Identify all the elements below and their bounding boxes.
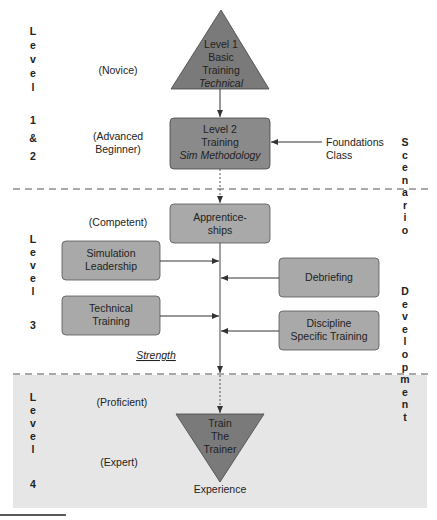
svg-text:n: n bbox=[402, 174, 408, 186]
svg-text:Level 2: Level 2 bbox=[203, 123, 237, 135]
svg-text:c: c bbox=[402, 149, 408, 161]
technical-training-text-1: Technical bbox=[89, 302, 133, 314]
svg-text:Trainer: Trainer bbox=[204, 443, 237, 455]
stage-novice: (Novice) bbox=[98, 64, 137, 76]
stage-proficient: (Proficient) bbox=[97, 396, 148, 408]
svg-text:e: e bbox=[30, 404, 36, 416]
svg-text:e: e bbox=[30, 67, 36, 79]
svg-text:t: t bbox=[403, 411, 407, 423]
training-progression-diagram: L e v e l 1 & 2 L e v e l 3 L e v e l 4 … bbox=[0, 0, 437, 520]
stage-expert: (Expert) bbox=[100, 456, 137, 468]
svg-text:l: l bbox=[32, 443, 35, 455]
discipline-specific-text-2: Specific Training bbox=[290, 330, 367, 342]
apprenticeships-text-2: ships bbox=[208, 224, 233, 236]
stage-competent: (Competent) bbox=[89, 216, 147, 228]
foundations-class-2: Class bbox=[326, 149, 352, 161]
svg-text:m: m bbox=[400, 373, 409, 385]
svg-text:e: e bbox=[30, 39, 36, 51]
svg-text:1: 1 bbox=[30, 114, 36, 126]
svg-text:3: 3 bbox=[30, 319, 36, 331]
svg-text:Sim Methodology: Sim Methodology bbox=[179, 149, 261, 161]
stage-advanced-beginner-2: Beginner) bbox=[95, 143, 141, 155]
svg-text:&: & bbox=[29, 132, 37, 144]
svg-text:l: l bbox=[32, 285, 35, 297]
technical-training-text-2: Training bbox=[92, 315, 130, 327]
svg-text:Level 1: Level 1 bbox=[204, 38, 238, 50]
simulation-leadership-text-2: Leadership bbox=[85, 260, 137, 272]
svg-text:r: r bbox=[403, 199, 407, 211]
svg-text:D: D bbox=[401, 285, 409, 297]
svg-text:n: n bbox=[402, 398, 408, 410]
svg-text:L: L bbox=[30, 233, 37, 245]
svg-text:e: e bbox=[402, 323, 408, 335]
svg-text:L: L bbox=[30, 391, 37, 403]
foundations-class-1: Foundations bbox=[326, 136, 384, 148]
svg-text:e: e bbox=[402, 386, 408, 398]
simulation-leadership-text-1: Simulation bbox=[86, 247, 135, 259]
svg-text:l: l bbox=[32, 81, 35, 93]
svg-text:4: 4 bbox=[30, 478, 36, 490]
svg-text:Basic: Basic bbox=[208, 51, 234, 63]
svg-text:v: v bbox=[30, 417, 36, 429]
apprenticeships-text-1: Apprentice- bbox=[193, 211, 247, 223]
svg-text:e: e bbox=[30, 430, 36, 442]
svg-text:e: e bbox=[30, 246, 36, 258]
svg-text:o: o bbox=[402, 348, 408, 360]
stage-advanced-beginner-1: (Advanced bbox=[93, 130, 143, 142]
svg-text:Technical: Technical bbox=[199, 77, 244, 89]
scenario-vertical-label: S c e n a r i o bbox=[401, 136, 408, 236]
svg-text:a: a bbox=[402, 186, 408, 198]
svg-text:v: v bbox=[402, 310, 408, 322]
svg-text:S: S bbox=[401, 136, 408, 148]
experience-label: Experience bbox=[194, 483, 247, 495]
svg-text:e: e bbox=[402, 161, 408, 173]
strength-label: Strength bbox=[136, 349, 176, 361]
svg-text:The: The bbox=[211, 430, 229, 442]
svg-text:p: p bbox=[402, 361, 408, 373]
discipline-specific-text-1: Discipline bbox=[307, 317, 352, 329]
svg-text:i: i bbox=[404, 211, 407, 223]
level-3-label: L e v e l 3 bbox=[30, 233, 37, 331]
svg-text:o: o bbox=[402, 224, 408, 236]
svg-text:v: v bbox=[30, 53, 36, 65]
svg-text:Train: Train bbox=[208, 417, 232, 429]
svg-text:l: l bbox=[404, 335, 407, 347]
level-1-text: Level 1 Basic Training Technical bbox=[199, 38, 244, 89]
svg-text:v: v bbox=[30, 259, 36, 271]
level-1-2-label: L e v e l 1 & 2 bbox=[29, 25, 37, 162]
svg-text:2: 2 bbox=[30, 150, 36, 162]
debriefing-text: Debriefing bbox=[305, 271, 353, 283]
svg-text:e: e bbox=[402, 298, 408, 310]
svg-text:L: L bbox=[30, 25, 37, 37]
svg-text:Training: Training bbox=[202, 64, 240, 76]
svg-text:e: e bbox=[30, 272, 36, 284]
svg-text:Training: Training bbox=[201, 136, 239, 148]
